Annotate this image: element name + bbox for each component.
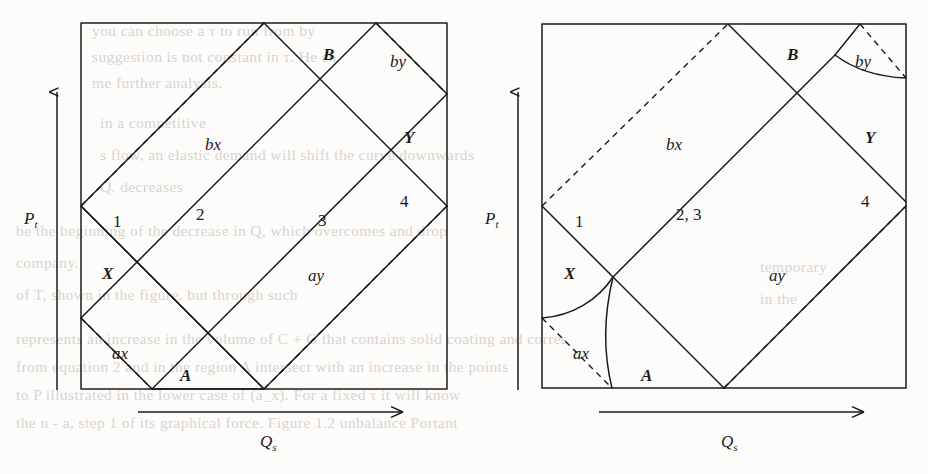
right-curve-ax-inner	[606, 277, 613, 388]
region-label-right-B: B	[787, 46, 798, 63]
right-panel-frame	[542, 24, 906, 388]
region-label-right-by: by	[855, 53, 871, 70]
y-axis-label-subscript: t	[34, 218, 37, 230]
left-line-X-ax	[81, 206, 264, 389]
right-line-23-upper	[613, 55, 835, 277]
left-panel-frame	[81, 23, 447, 389]
right-dash-bx-upper	[542, 24, 728, 206]
y-axis-label-right: Pt	[485, 210, 498, 230]
x-axis-label-subscript: s	[272, 441, 276, 453]
region-label-left-ay: ay	[308, 267, 324, 284]
left-line-3-4-boundary	[152, 94, 447, 389]
region-label-left-three: 3	[318, 212, 327, 229]
region-label-left-one: 1	[113, 213, 122, 230]
region-label-left-Y: Y	[404, 129, 414, 146]
region-label-left-X: X	[102, 265, 113, 282]
region-label-left-two: 2	[196, 206, 205, 223]
right-line-X-A	[613, 277, 724, 388]
region-label-left-bx: bx	[205, 136, 221, 153]
right-curve-ax-outer	[542, 277, 613, 318]
x-axis-label-left: Qs	[260, 433, 277, 453]
y-axis-label-base: P	[485, 209, 495, 228]
left-panel-geometry	[81, 23, 447, 389]
x-axis-label-base: Q	[721, 432, 733, 451]
region-label-right-four: 4	[861, 193, 870, 210]
region-label-left-by: by	[390, 53, 406, 70]
region-label-right-ay: ay	[769, 267, 785, 284]
left-panel-dashed	[81, 23, 447, 389]
region-label-right-X: X	[564, 265, 575, 282]
region-label-right-ax: ax	[573, 345, 589, 362]
x-axis-label-right: Qs	[721, 433, 738, 453]
right-panel-dashed	[542, 24, 906, 388]
left-line-B-Y-boundary	[264, 23, 447, 206]
left-line-2-3-boundary	[81, 23, 376, 318]
right-line-by-left	[835, 24, 860, 55]
x-axis-label-subscript: s	[733, 441, 737, 453]
region-label-right-one: 1	[575, 213, 584, 230]
y-axis-label-subscript: t	[495, 218, 498, 230]
region-label-left-four: 4	[400, 193, 409, 210]
region-label-right-A: A	[641, 367, 652, 384]
region-label-right-bx: bx	[666, 136, 682, 153]
x-axis-label-base: Q	[260, 432, 272, 451]
region-label-left-B: B	[323, 46, 334, 63]
figure-vector-layer	[0, 0, 928, 474]
region-label-left-ax: ax	[112, 345, 128, 362]
figure-page: you can choose a τ to run from bysuggest…	[0, 0, 928, 474]
region-label-right-twothree: 2, 3	[676, 206, 702, 223]
y-axis-label-left: Pt	[24, 210, 37, 230]
region-label-left-A: A	[180, 367, 191, 384]
right-panel-geometry	[542, 24, 906, 388]
right-line-B-Y	[728, 24, 906, 202]
region-label-right-Y: Y	[865, 129, 875, 146]
y-axis-label-base: P	[24, 209, 34, 228]
